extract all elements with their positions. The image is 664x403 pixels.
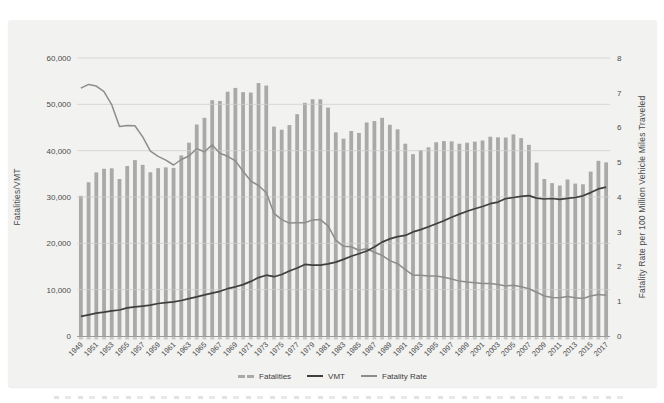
fatality-bar [403,144,407,336]
x-axis-tick [519,337,523,339]
fatality-bar [311,99,315,336]
legend-label-fatalities: Fatalities [259,372,291,381]
x-axis-tick [365,337,369,339]
x-axis-tick [581,337,585,339]
x-axis-year-label: 1959 [144,340,162,358]
x-axis-tick [125,337,129,339]
fatality-bar [357,133,361,336]
fatality-bar [542,179,546,336]
fatality-bar [125,166,129,336]
x-axis-tick [218,337,222,339]
x-axis-year-label: 1981 [314,340,332,358]
x-axis-tick [488,337,492,339]
chart: 010,00020,00030,00040,00050,00060,000 01… [0,0,664,403]
left-axis-tick-label: 20,000 [47,239,72,248]
fatality-bar [589,172,593,336]
fatality-bar [604,162,608,336]
x-axis-year-label: 1989 [376,340,394,358]
fatality-bar [558,186,562,336]
left-axis-tick-label: 0 [67,332,72,341]
x-axis-tick [349,337,353,339]
x-axis-year-label: 1977 [283,340,301,358]
left-axis-tick-labels: 010,00020,00030,00040,00050,00060,000 [47,54,72,341]
x-axis-tick [241,337,245,339]
x-axis-tick [373,337,377,339]
left-axis-tick-label: 60,000 [47,54,72,63]
fatality-bar [442,141,446,336]
right-axis-tick-label: 1 [617,297,622,306]
x-axis-year-label: 1951 [82,340,100,358]
x-axis-tick [558,337,562,339]
fatality-bar [581,184,585,336]
x-axis-tick [542,337,546,339]
fatality-bar [597,161,601,336]
x-axis-tick [318,337,322,339]
x-axis-tick [589,337,593,339]
fatality-bar [527,145,531,336]
fatality-bar [573,184,577,336]
x-axis-year-label: 1957 [128,340,146,358]
x-axis-tick [573,337,577,339]
left-axis-tick-label: 50,000 [47,100,72,109]
fatality-bar [241,92,245,336]
fatality-bar [288,125,292,336]
x-axis-year-label: 1985 [345,340,363,358]
x-axis-tick [465,337,469,339]
fatality-bar [195,125,199,336]
right-axis-tick-label: 0 [617,332,622,341]
fatality-bar [427,147,431,336]
right-axis-tick-label: 7 [617,89,622,98]
fatality-bar [342,139,346,336]
x-axis-year-label: 2007 [515,340,533,358]
legend-item-vmt: VMT [307,372,345,381]
x-axis-tick [434,337,438,339]
legend-label-vmt: VMT [328,372,345,381]
x-axis-tick [457,337,461,339]
x-axis-tick [396,337,400,339]
x-axis-tick [357,337,361,339]
x-axis-year-label: 2001 [468,340,486,358]
fatality-bar [318,99,322,336]
fatality-bar [519,138,523,336]
right-axis-tick-labels: 012345678 [617,54,622,341]
fatality-bar [179,155,183,336]
fatality-bar [450,141,454,336]
fatality-bar [233,88,237,336]
fatality-bar [226,92,230,336]
fatality-bar [496,137,500,336]
fatality-bar [272,127,276,336]
x-axis-year-label: 1967 [206,340,224,358]
fatality-bar [326,108,330,336]
x-axis-tick [527,337,531,339]
x-axis [77,337,610,340]
x-axis-tick [94,337,98,339]
fatality-bar [396,129,400,336]
fatality-bar [156,168,160,336]
x-axis-tick [164,337,168,339]
x-axis-tick [249,337,253,339]
x-axis-tick [380,337,384,339]
fatality-bar [434,142,438,336]
x-axis-year-label: 2011 [546,340,564,358]
fatalities-bar-swatch [238,375,254,378]
fatality-bar [257,83,261,336]
fatality-bar [264,86,268,336]
right-axis-tick-label: 3 [617,228,622,237]
x-axis-tick [79,337,83,339]
x-axis-tick [311,337,315,339]
x-axis-tick [411,337,415,339]
x-axis-tick [210,337,214,339]
x-axis-tick [272,337,276,339]
fatality-bar [550,183,554,336]
x-axis-tick [156,337,160,339]
x-axis-tick [388,337,392,339]
fatality-bar [465,143,469,336]
right-axis-tick-label: 6 [617,123,622,132]
right-axis-tick-label: 4 [617,193,622,202]
x-axis-tick [303,337,307,339]
vmt-line-swatch [307,375,323,377]
x-axis-year-label: 1987 [360,340,378,358]
x-axis-tick [604,337,608,339]
x-axis-year-label: 2015 [576,340,594,358]
x-axis-year-label: 1995 [422,340,440,358]
